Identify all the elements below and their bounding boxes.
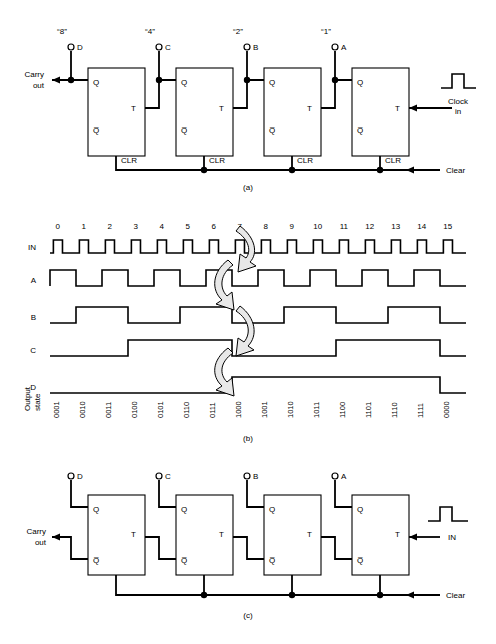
waveform-b bbox=[50, 307, 466, 323]
tick-label: 14 bbox=[417, 222, 426, 231]
tick-label: 4 bbox=[160, 222, 165, 231]
terminal-circle-c-c[interactable] bbox=[156, 473, 162, 479]
clr-label-b: CLR bbox=[297, 156, 313, 165]
terminal-label-c: C bbox=[165, 43, 171, 52]
terminal-circle-c[interactable] bbox=[156, 44, 162, 50]
clock-label-line1: Clock bbox=[448, 97, 469, 106]
output-state-label: 0110 bbox=[182, 402, 191, 418]
qbar-label-c-c: Q̅ bbox=[181, 556, 187, 565]
terminal-label-c-c: C bbox=[165, 472, 171, 481]
clear-junction-3-c bbox=[377, 592, 383, 598]
in-label-c: IN bbox=[448, 533, 456, 542]
clr-label-d: CLR bbox=[121, 156, 137, 165]
clear-label-a: Clear bbox=[446, 166, 465, 175]
tick-label: 13 bbox=[391, 222, 400, 231]
output-state-label: 1001 bbox=[260, 401, 269, 418]
qbar-label-a: Q̅ bbox=[357, 126, 363, 135]
q-label-a-c: Q bbox=[357, 505, 363, 514]
terminal-label-a: A bbox=[341, 43, 347, 52]
output-state-label: 0111 bbox=[208, 402, 217, 418]
waveform-row-labels: INABCD bbox=[28, 243, 37, 392]
output-state-label-line2: state bbox=[33, 393, 42, 411]
output-state-label: 1010 bbox=[286, 401, 295, 418]
panel-c-svg: Q Q̅ T Q Q̅ T Q Q̅ T Q Q̅ T D C B A bbox=[0, 455, 496, 644]
ripple-arrow-in-to-a bbox=[236, 226, 256, 272]
q-label-d: Q bbox=[93, 78, 99, 87]
panel-b: 0123456789101112131415 INABCD 0001001000… bbox=[0, 196, 496, 448]
terminal-circle-a-c[interactable] bbox=[332, 473, 338, 479]
output-state-label: 1111 bbox=[416, 403, 425, 418]
output-state-label-line1: Output bbox=[23, 386, 32, 411]
tick-labels-row: 0123456789101112131415 bbox=[56, 222, 453, 231]
output-state-label: 0101 bbox=[156, 401, 165, 418]
carry-out-label-c-line2: out bbox=[35, 538, 47, 547]
terminal-circle-d[interactable] bbox=[68, 44, 74, 50]
clear-bus-c: Clear bbox=[116, 575, 465, 600]
clock-arrowhead bbox=[409, 105, 417, 112]
tick-label: 10 bbox=[313, 222, 322, 231]
qbar-label-a-c: Q̅ bbox=[357, 556, 363, 565]
qbar-label-c: Q̅ bbox=[181, 126, 187, 135]
in-arrowhead bbox=[409, 534, 417, 541]
weight-label-4: “4” bbox=[145, 27, 155, 36]
tick-label: 9 bbox=[290, 222, 295, 231]
ripple-arrow-b-to-c bbox=[236, 306, 254, 356]
caption-c: (c) bbox=[243, 611, 253, 620]
terminal-circle-a[interactable] bbox=[332, 44, 338, 50]
clear-arrowhead-a bbox=[406, 167, 414, 174]
clear-arrowhead-c bbox=[406, 592, 414, 599]
t-label-d-c: T bbox=[131, 530, 136, 539]
carry-out-c: Carry out bbox=[26, 527, 88, 559]
t-label-a-c: T bbox=[395, 530, 400, 539]
clr-label-c: CLR bbox=[209, 156, 225, 165]
output-state-label: 0000 bbox=[442, 401, 451, 418]
qbar-label-b-c: Q̅ bbox=[269, 556, 275, 565]
clock-in-a: Clock in bbox=[409, 74, 476, 116]
weight-label-8: “8” bbox=[57, 27, 67, 36]
panel-a: Q Q̅ T Q Q̅ T Q Q̅ T Q Q̅ T D “8” C “4” … bbox=[0, 0, 496, 196]
clear-bus-a: Clear CLR CLR CLR CLR bbox=[116, 156, 465, 175]
weight-label-1: “1” bbox=[321, 27, 331, 36]
tick-label: 2 bbox=[108, 222, 113, 231]
carry-out-label-c-line1: Carry bbox=[26, 527, 46, 536]
carry-out-label-line2: out bbox=[33, 81, 45, 90]
output-state-label: 1100 bbox=[338, 402, 347, 418]
q-label-b: Q bbox=[269, 78, 275, 87]
junction-dot-c bbox=[156, 77, 162, 83]
clear-junction-1-c bbox=[201, 592, 207, 598]
output-state-label: 0010 bbox=[78, 401, 87, 418]
q-label-b-c: Q bbox=[269, 505, 275, 514]
tick-label: 0 bbox=[56, 222, 61, 231]
tick-label: 5 bbox=[186, 222, 191, 231]
waveform-a bbox=[50, 270, 466, 286]
terminal-label-a-c: A bbox=[341, 472, 347, 481]
output-state-label: 1000 bbox=[234, 401, 243, 418]
qbar-label-b: Q̅ bbox=[269, 126, 275, 135]
tick-label: 1 bbox=[82, 222, 87, 231]
carry-out-a: Carry out bbox=[24, 70, 88, 90]
tick-label: 12 bbox=[365, 222, 374, 231]
terminal-circle-b[interactable] bbox=[244, 44, 250, 50]
terminal-label-d: D bbox=[77, 43, 83, 52]
output-state-label: 1101 bbox=[364, 402, 373, 418]
output-state-label: 1011 bbox=[312, 402, 321, 418]
junction-dot-b bbox=[244, 77, 250, 83]
weight-label-2: “2” bbox=[233, 27, 243, 36]
terminal-circle-d-c[interactable] bbox=[68, 473, 74, 479]
panel-b-svg: 0123456789101112131415 INABCD 0001001000… bbox=[0, 196, 496, 448]
clear-junction-3 bbox=[377, 167, 383, 173]
figure-root: Q Q̅ T Q Q̅ T Q Q̅ T Q Q̅ T D “8” C “4” … bbox=[0, 0, 496, 644]
tick-label: 3 bbox=[134, 222, 139, 231]
output-state-label: 1110 bbox=[390, 402, 399, 418]
waveform-label-a: A bbox=[31, 276, 37, 285]
q-label-c: Q bbox=[181, 78, 187, 87]
terminal-label-d-c: D bbox=[77, 472, 83, 481]
qbar-label-d: Q̅ bbox=[93, 126, 99, 135]
t-label-b-c: T bbox=[307, 530, 312, 539]
terminal-circle-b-c[interactable] bbox=[244, 473, 250, 479]
clear-junction-1 bbox=[201, 167, 207, 173]
terminal-label-b-c: B bbox=[253, 472, 258, 481]
tick-label: 11 bbox=[340, 222, 349, 231]
clock-label-line2: in bbox=[455, 107, 461, 116]
waveforms bbox=[50, 240, 466, 393]
